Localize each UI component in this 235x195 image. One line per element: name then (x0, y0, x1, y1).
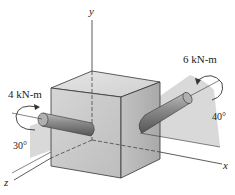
right-angle-label: 40° (212, 112, 226, 122)
z-axis-label: z (4, 177, 8, 188)
x-axis-label: x (223, 160, 228, 171)
left-moment-label: 4 kN-m (8, 89, 42, 100)
right-moment-label: 6 kN-m (183, 54, 217, 65)
left-angle-label: 30° (13, 141, 27, 151)
left-arrow-head-icon (34, 104, 40, 110)
y-axis-label: y (89, 6, 94, 17)
x-axis (160, 152, 222, 164)
